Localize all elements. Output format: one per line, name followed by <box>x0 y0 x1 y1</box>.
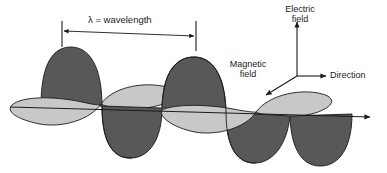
electric-field-label-line2: field <box>292 14 309 24</box>
field-axes <box>266 22 326 95</box>
direction-label: Direction <box>330 70 366 80</box>
electric-field-label: Electric field <box>278 4 322 24</box>
magnetic-field-label-line1: Magnetic <box>230 59 267 69</box>
electric-trough-2 <box>290 114 352 166</box>
electric-field-label-line1: Electric <box>285 4 315 14</box>
em-wave-diagram: λ = wavelength Electric field Magnetic f… <box>0 0 387 173</box>
magnetic-field-label: Magnetic field <box>222 59 274 79</box>
wavelength-label: λ = wavelength <box>88 15 152 25</box>
wave-figure-svg <box>0 0 387 173</box>
electric-trough-1 <box>102 106 162 158</box>
wavelength-annotation <box>62 21 196 51</box>
electric-crest-2 <box>162 57 226 112</box>
wavelength-arrow-span <box>64 31 194 36</box>
magnetic-lobe-far-2 <box>256 92 332 117</box>
electric-crest-1 <box>41 47 102 106</box>
magnetic-field-label-line2: field <box>240 69 257 79</box>
